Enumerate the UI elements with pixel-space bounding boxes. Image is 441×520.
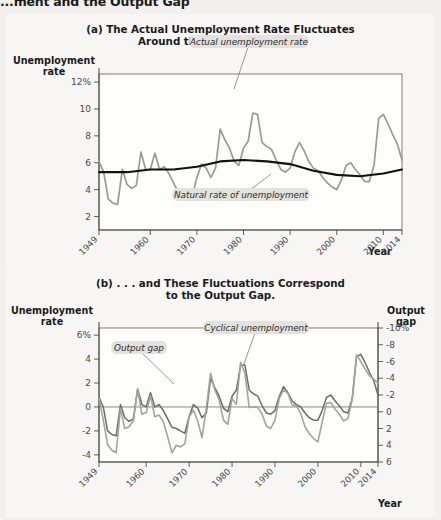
panel-a-xtick: 1990 [268,234,291,257]
panel-a-ytick: 6 [85,158,91,168]
panel-b-ytick-right: 0 [386,407,392,417]
panel-b-ytick-right: -10% [386,323,410,333]
svg-text:Actual unemployment rate: Actual unemployment rate [189,37,309,47]
panel-b-ytick-right: 6 [386,457,392,467]
svg-text:Cyclical unemployment: Cyclical unemployment [204,323,308,333]
panel-a-plot: 24681012%1949196019701980199020002010201… [6,14,435,272]
panel-a-xtick: 2010 [361,234,384,257]
panel-b-ytick-left: -2 [82,426,91,436]
panel-b-plot: -4-20246%-10%-8-6-4-20246194919601970198… [6,272,435,518]
panel-b-xtick: 1960 [124,466,147,489]
panel-b-ytick-right: -2 [386,390,395,400]
panel-a-xtick: 2000 [315,234,338,257]
panel-b-ytick-left: 6% [77,330,92,340]
panel-a-ytick: 10 [80,104,92,114]
panel-a-xtick: 1980 [221,234,244,257]
panel-a-ytick: 4 [85,185,91,195]
panel-a-xtick: 1949 [77,234,100,257]
panel-b-xtick: 1980 [210,466,233,489]
panel-b-ytick-left: -4 [82,450,91,460]
panel-b-xtick: 1949 [77,466,100,489]
panel-a-xtick: 1960 [128,234,151,257]
panel-b-ytick-right: -6 [386,357,395,367]
panel-b-ytick-left: 0 [85,402,91,412]
panel-b-xtick: 1990 [253,466,276,489]
panel-b-ytick-right: 2 [386,424,392,434]
svg-text:Output gap: Output gap [114,343,164,353]
panel-b-xtick: 2000 [296,466,319,489]
panel-a-ytick: 2 [85,212,91,222]
panel-a-plot-area [99,74,402,230]
panel-a-ytick: 8 [85,131,91,141]
panel-a-xtick: 2014 [380,234,403,257]
chart-panel-b: (b) . . . and These Fluctuations Corresp… [6,272,435,518]
panel-b-xtick: 2014 [356,466,379,489]
svg-text:Natural rate of unemployment: Natural rate of unemployment [174,190,308,200]
page-header: ...ment and the Output Gap [0,0,441,14]
panel-b-ytick-left: 2 [85,378,91,388]
panel-a-ytick: 12% [71,77,91,87]
panel-b-xtick: 1970 [167,466,190,489]
panel-b-xtick: 2010 [339,466,362,489]
panel-b-ytick-left: 4 [85,354,91,364]
page-title: ...ment and the Output Gap [0,0,189,9]
panel-b-ytick-right: 4 [386,440,392,450]
chart-panel-a: (a) The Actual Unemployment Rate Fluctua… [6,14,435,272]
panel-b-ytick-right: -4 [386,373,395,383]
panel-a-xtick: 1970 [175,234,198,257]
panel-b-ytick-right: -8 [386,340,395,350]
